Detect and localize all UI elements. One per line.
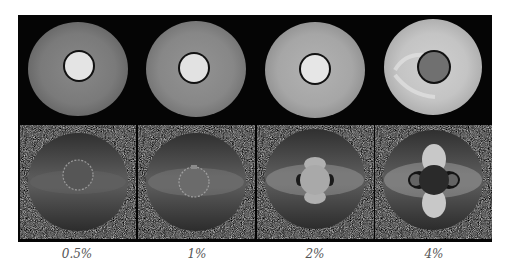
figure-frame (18, 15, 492, 242)
concentration-labels: 0.5% 1% 2% 4% (0, 247, 511, 269)
magnitude-panel-0-5pct (20, 15, 136, 123)
phase-panel-1pct (138, 125, 255, 239)
magnitude-panel-4pct (375, 15, 492, 123)
magnitude-panel-2pct (257, 15, 374, 123)
phase-panel-0-5pct (20, 125, 136, 239)
label-2pct: 2% (275, 247, 355, 261)
label-4pct: 4% (394, 247, 474, 261)
label-0-5pct: 0.5% (37, 247, 117, 261)
phase-panel-4pct (375, 125, 492, 239)
label-1pct: 1% (157, 247, 237, 261)
inclusion-disc (65, 52, 93, 80)
phase-panel-2pct (257, 125, 374, 239)
magnitude-panel-1pct (138, 15, 255, 123)
